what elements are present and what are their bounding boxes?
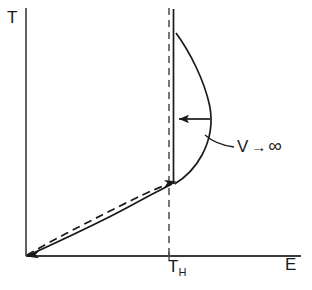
y-axis-label: T [7, 9, 17, 26]
limit-variable-label: V [237, 137, 248, 156]
dashed-lower-branch [27, 184, 170, 256]
loop-curve [175, 33, 211, 184]
critical-temperature-label: TH [168, 258, 186, 278]
right-arrow-icon: → [251, 138, 265, 155]
infinity-icon: ∞ [268, 135, 282, 156]
solid-lower-branch [27, 184, 172, 256]
figure-container: T E TH V→∞ [0, 0, 312, 290]
critical-tick-base: T [168, 257, 178, 276]
limit-annotation: V→∞ [237, 136, 282, 155]
x-axis-label: E [285, 256, 296, 273]
critical-tick-subscript: H [178, 266, 186, 278]
